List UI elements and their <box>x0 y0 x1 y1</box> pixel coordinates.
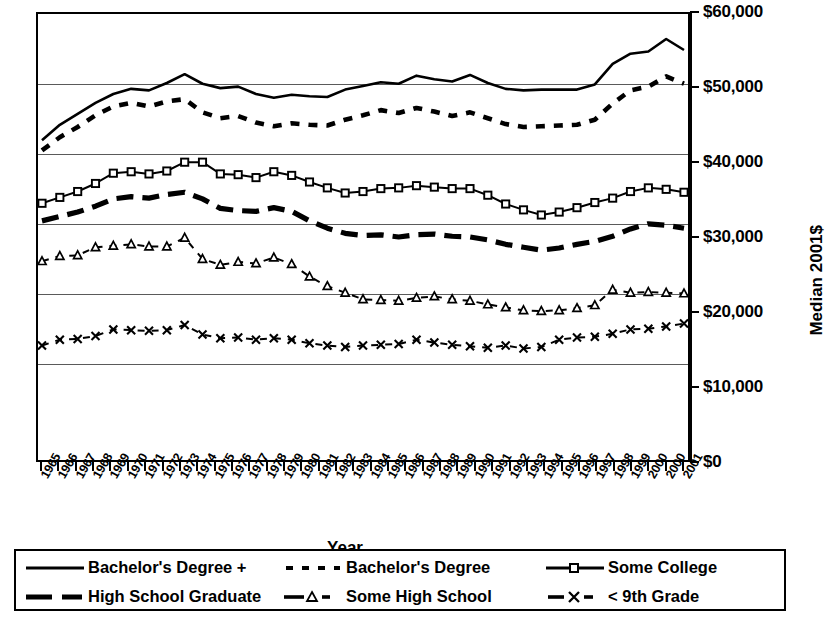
legend-item-bachelors-degree-plus: Bachelor's Degree + <box>16 553 282 582</box>
series-marker <box>449 185 456 192</box>
series-marker <box>163 242 171 250</box>
series-marker <box>627 325 635 333</box>
series-marker <box>56 252 64 260</box>
y-tick-label: $40,000 <box>703 152 763 172</box>
series-marker <box>324 184 331 191</box>
series-marker <box>626 288 634 296</box>
legend-swatch-less-than-9th-grade <box>544 587 606 607</box>
series-marker <box>609 195 616 202</box>
series-marker <box>38 200 45 207</box>
series-marker <box>662 288 670 296</box>
y-tick <box>690 386 699 388</box>
series-marker <box>484 300 492 308</box>
series-layer <box>38 14 688 460</box>
y-tick <box>690 236 699 238</box>
series-marker <box>377 296 385 304</box>
series-marker <box>128 168 135 175</box>
series-marker <box>627 188 634 195</box>
legend-swatch-bachelors-degree <box>282 558 344 578</box>
series-marker <box>109 241 117 249</box>
series-marker <box>412 293 420 301</box>
series-marker <box>145 170 152 177</box>
series-marker <box>663 186 670 193</box>
legend-label: High School Graduate <box>86 587 261 606</box>
legend-label: < 9th Grade <box>606 587 699 606</box>
series-marker <box>288 260 296 268</box>
legend-label: Bachelor's Degree + <box>86 558 246 577</box>
series-marker <box>341 288 349 296</box>
series-marker <box>92 180 99 187</box>
series-marker <box>573 204 580 211</box>
series-marker <box>181 233 189 241</box>
series-marker <box>520 206 527 213</box>
plot-area <box>36 12 690 462</box>
series-marker <box>359 188 366 195</box>
series-line-high-school-graduate <box>42 192 684 250</box>
series-marker <box>555 336 563 344</box>
series-marker <box>110 170 117 177</box>
series-marker <box>288 172 295 179</box>
series-marker <box>555 306 563 314</box>
series-marker <box>145 242 153 250</box>
series-marker <box>323 282 331 290</box>
series-marker <box>270 253 278 261</box>
series-marker <box>74 251 82 259</box>
series-marker <box>573 304 581 312</box>
legend-item-some-high-school: Some High School <box>282 582 544 611</box>
legend: Bachelor's Degree + Bachelor's Degree So… <box>14 549 786 611</box>
legend-label: Some High School <box>344 587 492 606</box>
series-marker <box>556 208 563 215</box>
series-marker <box>359 295 367 303</box>
y-tick <box>690 86 699 88</box>
legend-item-bachelors-degree: Bachelor's Degree <box>282 553 544 582</box>
series-marker <box>217 170 224 177</box>
y-tick-label: $20,000 <box>703 302 763 322</box>
series-marker <box>591 199 598 206</box>
y-tick-label: $60,000 <box>703 2 763 22</box>
series-marker <box>395 296 403 304</box>
series-marker <box>484 192 491 199</box>
series-marker <box>680 289 688 297</box>
series-marker <box>216 260 224 268</box>
legend-item-some-college: Some College <box>544 553 784 582</box>
series-marker <box>466 185 473 192</box>
legend-swatch-some-college <box>544 558 606 578</box>
y-tick-label: $0 <box>703 452 722 472</box>
series-marker <box>448 295 456 303</box>
y-axis-title: Median 2001$ <box>807 225 827 336</box>
series-marker <box>680 189 687 196</box>
series-marker <box>235 171 242 178</box>
series-marker <box>342 189 349 196</box>
legend-label: Some College <box>606 558 717 577</box>
legend-label: Bachelor's Degree <box>344 558 490 577</box>
legend-swatch-high-school-graduate <box>24 587 86 607</box>
series-marker <box>56 194 63 201</box>
series-marker <box>270 168 277 175</box>
series-marker <box>395 184 402 191</box>
series-marker <box>466 296 474 304</box>
series-marker <box>502 303 510 311</box>
series-marker <box>127 240 135 248</box>
series-marker <box>502 200 509 207</box>
series-marker <box>644 288 652 296</box>
y-tick-label: $30,000 <box>703 227 763 247</box>
y-tick <box>690 311 699 313</box>
series-marker <box>163 167 170 174</box>
series-marker <box>431 184 438 191</box>
y-tick <box>690 161 699 163</box>
series-marker <box>199 159 206 166</box>
series-marker <box>430 292 438 300</box>
series-marker <box>413 182 420 189</box>
series-marker <box>234 258 242 266</box>
series-marker <box>91 243 99 251</box>
series-marker <box>252 336 260 344</box>
series-marker <box>537 307 545 315</box>
legend-item-less-than-9th-grade: < 9th Grade <box>544 582 784 611</box>
series-marker <box>306 178 313 185</box>
legend-item-high-school-graduate: High School Graduate <box>16 582 282 611</box>
y-tick <box>690 11 699 13</box>
series-marker <box>591 301 599 309</box>
series-marker <box>645 184 652 191</box>
series-line-bachelor-s-degree <box>42 39 684 140</box>
